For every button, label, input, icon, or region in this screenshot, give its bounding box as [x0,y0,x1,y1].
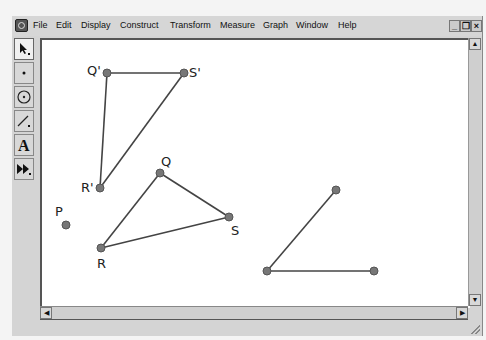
point-p[interactable] [62,221,70,229]
point-a[interactable] [263,267,271,275]
point-c[interactable] [370,267,378,275]
point-label[interactable]: Q' [87,63,101,78]
segment-r-s[interactable] [101,217,229,248]
point-label[interactable]: R [97,256,106,271]
point-label[interactable]: Q [161,154,171,169]
sketch-geometry: Q'S'R'QSRP [0,0,486,340]
point-s-prime[interactable] [180,69,188,77]
point-label[interactable]: R' [81,180,94,195]
point-q-prime[interactable] [103,69,111,77]
segment-q-s[interactable] [160,173,229,217]
point-r[interactable] [97,244,105,252]
point-r-prime[interactable] [96,184,104,192]
point-label[interactable]: S [231,223,239,238]
point-label[interactable]: P [55,204,63,219]
segment-q-r[interactable] [101,173,160,248]
segment-qp-rp[interactable] [100,73,107,188]
segment-a-b[interactable] [267,190,336,271]
point-q[interactable] [156,169,164,177]
point-label[interactable]: S' [189,65,201,80]
point-b[interactable] [332,186,340,194]
segment-rp-sp[interactable] [100,73,184,188]
point-s[interactable] [225,213,233,221]
